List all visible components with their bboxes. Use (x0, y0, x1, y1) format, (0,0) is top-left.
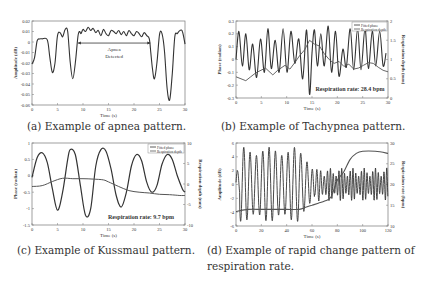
y-tick-label: 0.5 (24, 157, 30, 162)
plot-area (32, 143, 185, 225)
x-tick-label: 30 (386, 100, 391, 105)
panel-d: 020406080100120Time (s)6420-2-4-6Amplitu… (216, 140, 433, 283)
annotation-detected: Detected (105, 54, 123, 59)
y-right-tick-label: 2 (390, 19, 392, 24)
y-tick-label: -0.05 (21, 92, 31, 97)
x-axis-label: Time (s) (304, 106, 321, 111)
y-axis-label: Phase (radian) (13, 169, 18, 199)
x-tick-label: 0 (235, 228, 238, 233)
panel-c: 051015202530Time (s)10.50-0.5-1-1.5Phase… (0, 140, 216, 283)
legend-respiration-depth: Respiration depth (361, 28, 386, 32)
x-tick-label: 5 (56, 107, 59, 112)
y-tick-label: 0 (232, 57, 235, 62)
legend-respiration-depth: Respiration depth (157, 150, 182, 154)
y-axis-label: Amplitude (dB) (13, 47, 18, 80)
legend: Fitted phaseRespiration depth (148, 144, 184, 154)
respiration-rate-label: Respiration rate: 9.7 bpm (108, 214, 174, 220)
y-right-axis-label: Respiration depth (mm) (198, 159, 203, 209)
y-tick-label: -0.3 (227, 96, 235, 101)
y-tick-label: 0.01 (22, 29, 30, 34)
y-tick-label: 0 (28, 173, 31, 178)
x-tick-label: 40 (284, 228, 289, 233)
x-tick-label: 20 (335, 100, 340, 105)
x-tick-label: 20 (132, 107, 137, 112)
y-tick-label: 1 (28, 141, 30, 146)
x-tick-label: 30 (183, 107, 188, 112)
y-tick-label: 2 (232, 168, 234, 173)
x-tick-label: 25 (157, 227, 162, 232)
y-tick-label: 0.02 (22, 19, 30, 24)
x-axis-label: Time (s) (100, 113, 117, 118)
x-tick-label: 15 (106, 107, 111, 112)
x-tick-label: 10 (284, 100, 289, 105)
x-tick-label: 5 (56, 227, 59, 232)
y-right-tick-label: 10 (187, 141, 192, 146)
y-tick-label: -0.02 (21, 61, 30, 66)
panel-a: 051015202530Time (s)0.020.010-0.01-0.02-… (0, 0, 216, 140)
y-tick-label: 6 (232, 141, 235, 146)
y-tick-label: -0.2 (227, 83, 234, 88)
x-tick-label: 15 (310, 100, 315, 105)
caption-d-line1: (d) Example of rapid change pattern of (207, 243, 415, 257)
y-tick-label: -0.01 (21, 50, 30, 55)
x-tick-label: 0 (31, 227, 34, 232)
y-tick-label: -1.5 (23, 223, 31, 228)
y-right-tick-label: 0 (187, 182, 190, 187)
y-tick-label: 0 (28, 40, 31, 45)
y-tick-label: 4 (232, 154, 235, 159)
y-right-tick-label: 30 (390, 141, 395, 146)
chart-apnea: 051015202530Time (s)0.020.010-0.01-0.02-… (0, 0, 216, 118)
x-tick-label: 60 (310, 228, 315, 233)
y-tick-label: -0.06 (21, 103, 31, 108)
y-right-axis-label: Respiration rate (bpm) (401, 161, 406, 209)
chart-rapid-change: 020406080100120Time (s)6420-2-4-6Amplitu… (216, 140, 433, 242)
y-tick-label: -1 (26, 206, 30, 211)
chart-tachypnea: 051015202530Time (s)0.30.20.10-0.1-0.2-0… (216, 0, 433, 118)
caption-d-line2: respiration rate. (207, 259, 294, 273)
y-right-tick-label: 10 (390, 224, 395, 229)
y-axis-label: Amplitude (dB) (217, 168, 222, 201)
y-right-tick-label: -10 (187, 223, 194, 228)
y-right-tick-label: 0.5 (390, 76, 396, 81)
x-tick-label: 5 (260, 100, 263, 105)
y-right-tick-label: 15 (390, 203, 395, 208)
chart-kussmaul: 051015202530Time (s)10.50-0.5-1-1.5Phase… (0, 140, 216, 242)
y-right-axis-label: Respiration depth (mm) (401, 35, 406, 85)
y-tick-label: 0 (232, 182, 235, 187)
x-tick-label: 10 (81, 107, 86, 112)
x-tick-label: 0 (235, 100, 238, 105)
y-tick-label: -0.5 (23, 190, 31, 195)
annotation-apnea: Apnea (108, 47, 122, 52)
x-tick-label: 120 (385, 228, 393, 233)
x-tick-label: 10 (81, 227, 86, 232)
caption-c: (c) Example of Kussmaul pattern. (17, 243, 195, 257)
y-tick-label: -4 (230, 210, 234, 215)
x-tick-label: 100 (359, 228, 367, 233)
y-tick-label: 0.2 (228, 31, 234, 36)
y-tick-label: -2 (230, 196, 234, 201)
y-right-tick-label: 0 (390, 96, 393, 101)
y-right-tick-label: 20 (390, 182, 395, 187)
caption-b: (b) Example of Tachypnea pattern. (221, 119, 405, 133)
y-right-tick-label: -5 (187, 202, 191, 207)
x-tick-label: 20 (132, 227, 137, 232)
y-axis-label: Phase (radian) (217, 44, 222, 74)
x-tick-label: 80 (335, 228, 340, 233)
x-tick-label: 30 (183, 227, 188, 232)
x-axis-label: Time (s) (100, 233, 117, 238)
x-tick-label: 25 (360, 100, 365, 105)
x-axis-label: Time (s) (304, 234, 321, 239)
legend: Fitted phaseRespiration depth (352, 22, 387, 32)
y-right-tick-label: 1 (390, 57, 392, 62)
y-right-tick-label: 1.5 (390, 38, 396, 43)
y-right-tick-label: 5 (187, 161, 190, 166)
x-tick-label: 0 (31, 107, 34, 112)
respiration-rate-label: Respiration rate: 28.4 bpm (316, 86, 385, 92)
y-tick-label: -0.1 (227, 70, 234, 75)
caption-a: (a) Example of apnea pattern. (27, 119, 186, 133)
y-tick-label: 0.1 (228, 44, 234, 49)
y-tick-label: -0.04 (21, 82, 31, 87)
x-tick-label: 20 (259, 228, 264, 233)
panel-b: 051015202530Time (s)0.30.20.10-0.1-0.2-0… (216, 0, 433, 140)
y-tick-label: 0.3 (228, 19, 234, 24)
